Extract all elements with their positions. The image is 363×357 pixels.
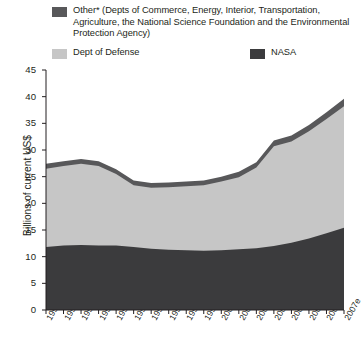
legend-label-nasa: NASA bbox=[271, 47, 296, 59]
legend-swatch-other-icon bbox=[52, 7, 67, 17]
legend-swatch-dept-of-defense-icon bbox=[52, 49, 67, 59]
legend-item-dept-of-defense: Dept of Defense bbox=[52, 47, 139, 59]
legend-label-other: Other* (Depts of Commerce, Energy, Inter… bbox=[73, 5, 355, 40]
chart-canvas bbox=[0, 62, 359, 357]
chart-legend: Other* (Depts of Commerce, Energy, Inter… bbox=[0, 0, 359, 66]
legend-item-nasa: NASA bbox=[250, 47, 296, 59]
legend-label-dept-of-defense: Dept of Defense bbox=[73, 47, 139, 59]
plot-area: Billions of current US$ 0510152025303540… bbox=[0, 62, 359, 357]
legend-item-other: Other* (Depts of Commerce, Energy, Inter… bbox=[52, 5, 356, 40]
legend-swatch-nasa-icon bbox=[250, 49, 265, 59]
